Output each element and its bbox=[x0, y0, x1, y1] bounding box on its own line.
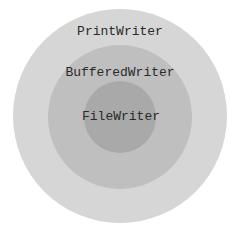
bufferedwriter-label: BufferedWriter bbox=[65, 65, 174, 80]
filewriter-label: FileWriter bbox=[82, 109, 160, 124]
printwriter-label: PrintWriter bbox=[77, 24, 163, 39]
